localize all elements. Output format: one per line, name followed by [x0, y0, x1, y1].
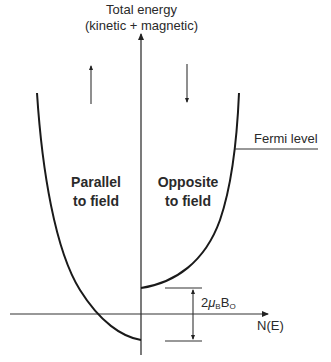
fermi-level-label: Fermi level [254, 131, 318, 146]
parallel-region-label: Parallel to field [58, 173, 134, 211]
parallel-label-line2: to field [58, 192, 134, 211]
gap-label: 2μBBO [201, 295, 236, 311]
opposite-region-label: Opposite to field [148, 173, 228, 211]
energy-axis-title-line1: Total energy [0, 2, 283, 18]
opposite-label-line1: Opposite [148, 173, 228, 192]
energy-axis-title-line2: (kinetic + magnetic) [0, 18, 283, 34]
x-axis-label: N(E) [257, 318, 284, 333]
opposite-label-line2: to field [148, 192, 228, 211]
parallel-band-curve [37, 93, 141, 340]
parallel-label-line1: Parallel [58, 173, 134, 192]
energy-axis-title: Total energy (kinetic + magnetic) [0, 2, 283, 34]
gap-b-sub: O [229, 302, 235, 311]
